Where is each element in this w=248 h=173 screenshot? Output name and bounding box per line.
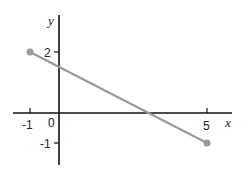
y-axis-label: y [46, 13, 54, 28]
line-chart: -1 0 5 2 -1 x y [0, 0, 248, 173]
endpoint-right [204, 140, 211, 147]
y-tick-label-2: 2 [44, 46, 51, 60]
x-tick-label-neg1: -1 [22, 118, 33, 132]
origin-label: 0 [48, 116, 55, 130]
data-segment [30, 52, 207, 143]
x-axis-label: x [224, 115, 231, 130]
y-tick-label-neg1: -1 [40, 137, 51, 151]
endpoint-left [27, 49, 34, 56]
x-tick-label-5: 5 [203, 119, 210, 133]
